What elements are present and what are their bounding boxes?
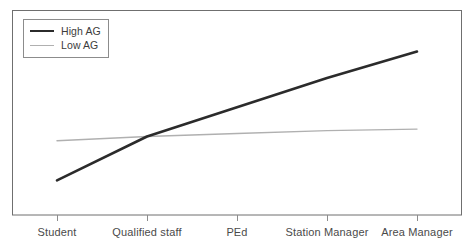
x-axis-ticks (58, 215, 418, 221)
legend-swatch-high-ag (30, 30, 54, 32)
legend-item-low-ag: Low AG (30, 38, 101, 52)
legend-label-low-ag: Low AG (61, 38, 98, 52)
x-axis-label-area-manager: Area Manager (372, 224, 462, 244)
chart-legend: High AG Low AG (23, 19, 109, 58)
x-axis-label-ped: PEd (192, 224, 282, 244)
x-axis-label-student: Student (12, 224, 102, 244)
legend-label-high-ag: High AG (61, 24, 101, 38)
line-chart: High AG Low AG Student Qualified staff P… (0, 0, 473, 248)
x-axis-label-qualified-staff: Qualified staff (102, 224, 192, 244)
legend-swatch-low-ag (30, 45, 54, 46)
x-axis-labels: Student Qualified staff PEd Station Mana… (12, 224, 462, 244)
legend-item-high-ag: High AG (30, 24, 101, 38)
x-axis-label-station-manager: Station Manager (282, 224, 372, 244)
series-line-low-ag (57, 129, 417, 141)
series-line-high-ag (57, 52, 417, 181)
